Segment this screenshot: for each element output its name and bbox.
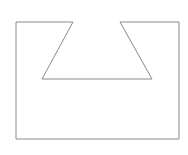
diagram-canvas <box>0 0 188 155</box>
notched-rectangle-shape <box>16 22 179 139</box>
